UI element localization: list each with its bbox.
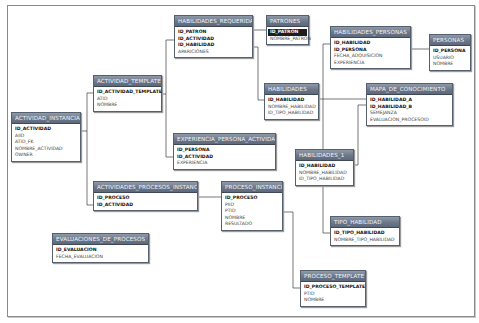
table-evaluaciones-de-procesos[interactable]: EVALUACIONES_DE_PROCESOS ID_EVALUACION F… (52, 233, 149, 263)
field-primary-key[interactable]: ID_HABILIDAD_A (370, 97, 449, 104)
table-title[interactable]: HABILIDADES (265, 84, 318, 95)
field-primary-key[interactable]: ID_PROCESO_TEMPLATE (304, 284, 362, 291)
table-title[interactable]: PROCESO_TEMPLATE (301, 271, 365, 282)
table-title[interactable]: HABILIDADES_PERSONAS (331, 27, 410, 38)
field-primary-key-selected[interactable]: ID_PATRON (268, 29, 307, 36)
field-primary-key[interactable]: ID_ACTIVIDAD_TEMPLATE (97, 89, 158, 96)
field[interactable]: PIID (225, 202, 279, 209)
field-primary-key[interactable]: ID_PROCESO (225, 195, 279, 202)
field[interactable]: NOMBRE (433, 61, 467, 68)
table-proceso-instancia[interactable]: PROCESO_INSTANCIA ID_PROCESO PIID PTID N… (221, 181, 283, 231)
field[interactable]: EXPERIENCIA (177, 160, 272, 167)
field-primary-key[interactable]: ID_ACTIVIDAD (178, 36, 249, 43)
table-personas[interactable]: PERSONAS ID_PERSONA USUARIO NOMBRE (429, 34, 471, 71)
field[interactable]: PTID (304, 291, 362, 298)
field[interactable]: PTID (225, 208, 279, 215)
field[interactable]: NOMBRE_PATRON (270, 36, 305, 43)
table-proceso-template[interactable]: PROCESO_TEMPLATE ID_PROCESO_TEMPLATE PTI… (300, 270, 366, 307)
field[interactable]: FECHA_EVALUACION (56, 254, 145, 261)
field[interactable]: RESULTADO (225, 221, 279, 228)
field[interactable]: EXPERIENCIA (334, 60, 407, 67)
field-primary-key[interactable]: ID_PATRON (178, 29, 249, 36)
table-title[interactable]: PROCESO_INSTANCIA (222, 182, 282, 193)
table-actividad-instancia[interactable]: ACTIVIDAD_INSTANCIA ID_ACTIVIDAD AIID AT… (11, 112, 81, 162)
table-habilidades-1[interactable]: HABILIDADES_1 ID_HABILIDAD NOMBRE_HABILI… (295, 149, 354, 186)
table-title[interactable]: MAPA_DE_CONOCIMIENTO (367, 84, 452, 95)
field[interactable]: FECHA_ADQUISICION (334, 53, 407, 60)
field[interactable]: NOMBRE_HABILIDAD (299, 170, 350, 177)
field[interactable]: ID_TIPO_HABILIDAD (268, 110, 315, 117)
table-habilidades-requeridas[interactable]: HABILIDADES_REQUERIDAS ID_PATRON ID_ACTI… (174, 15, 253, 58)
table-title[interactable]: EXPERIENCIA_PERSONA_ACTIVIDAD (174, 134, 275, 145)
field[interactable]: NOMBRE (97, 102, 158, 109)
field[interactable]: EVALUACION_PROCESOID (370, 117, 449, 124)
table-mapa-de-conocimiento[interactable]: MAPA_DE_CONOCIMIENTO ID_HABILIDAD_A ID_H… (366, 83, 453, 126)
table-title[interactable]: ACTIVIDADES_PROCESOS_INSTANCIA (94, 182, 197, 193)
field-primary-key[interactable]: ID_ACTIVIDAD (97, 202, 194, 209)
table-title[interactable]: EVALUACIONES_DE_PROCESOS (53, 234, 148, 245)
table-title[interactable]: HABILIDADES_1 (296, 150, 353, 161)
field[interactable]: NOMBRE (225, 215, 279, 222)
field[interactable]: NOMBRE_ACTIVIDAD (15, 146, 77, 153)
table-title[interactable]: PATRONES (267, 16, 308, 27)
field[interactable]: NOMBRE (304, 297, 362, 304)
table-title[interactable]: ACTIVIDAD_TEMPLATE (94, 76, 161, 87)
field-primary-key[interactable]: ID_HABILIDAD (334, 40, 407, 47)
field-primary-key[interactable]: ID_PERSONA (334, 47, 407, 54)
table-habilidades[interactable]: HABILIDADES ID_HABILIDAD NOMBRE_HABILIDA… (264, 83, 319, 120)
table-tipo-habilidad[interactable]: TIPO_HABILIDAD ID_TIPO_HABILIDAD NOMBRE_… (330, 216, 400, 246)
table-title[interactable]: ACTIVIDAD_INSTANCIA (12, 113, 80, 124)
field-primary-key[interactable]: ID_PERSONA (433, 48, 467, 55)
field[interactable]: AIID (15, 133, 77, 140)
field-primary-key[interactable]: ID_TIPO_HABILIDAD (334, 230, 396, 237)
table-title[interactable]: PERSONAS (430, 35, 470, 46)
table-experiencia-persona-actividad[interactable]: EXPERIENCIA_PERSONA_ACTIVIDAD ID_PERSONA… (173, 133, 276, 170)
table-habilidades-personas[interactable]: HABILIDADES_PERSONAS ID_HABILIDAD ID_PER… (330, 26, 411, 69)
field-primary-key[interactable]: ID_HABILIDAD (299, 163, 350, 170)
table-actividades-procesos-instancia[interactable]: ACTIVIDADES_PROCESOS_INSTANCIA ID_PROCES… (93, 181, 198, 211)
table-actividad-template[interactable]: ACTIVIDAD_TEMPLATE ID_ACTIVIDAD_TEMPLATE… (93, 75, 162, 112)
table-patrones[interactable]: PATRONES ID_PATRON NOMBRE_PATRON (266, 15, 309, 45)
field[interactable]: NOMBRE_TIPO_HABILIDAD (334, 237, 396, 244)
field-primary-key[interactable]: ID_EVALUACION (56, 247, 145, 254)
table-title[interactable]: TIPO_HABILIDAD (331, 217, 399, 228)
field-primary-key[interactable]: ID_PROCESO (97, 195, 194, 202)
field[interactable]: APARICIONES (178, 49, 249, 56)
field[interactable]: OWNER (15, 152, 77, 159)
field[interactable]: ATID_FK (15, 139, 77, 146)
field-primary-key[interactable]: ID_HABILIDAD (178, 42, 249, 49)
field-primary-key[interactable]: ID_PERSONA (177, 147, 272, 154)
field-primary-key[interactable]: ID_HABILIDAD (268, 97, 315, 104)
field[interactable]: USUARIO (433, 55, 467, 62)
field[interactable]: ATID (97, 96, 158, 103)
table-title[interactable]: HABILIDADES_REQUERIDAS (175, 16, 252, 27)
field[interactable]: NOMBRE_HABILIDAD (268, 104, 315, 111)
field-primary-key[interactable]: ID_ACTIVIDAD (177, 154, 272, 161)
field-primary-key[interactable]: ID_HABILIDAD_B (370, 104, 449, 111)
field[interactable]: ID_TIPO_HABILIDAD (299, 176, 350, 183)
field[interactable]: SEMEJANZA (370, 110, 449, 117)
field-primary-key[interactable]: ID_ACTIVIDAD (15, 126, 77, 133)
